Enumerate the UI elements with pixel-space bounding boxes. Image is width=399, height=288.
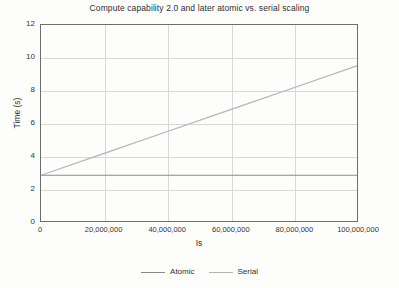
y-tick-label: 8 xyxy=(0,85,35,94)
series-layer xyxy=(41,25,357,221)
y-tick-label: 10 xyxy=(0,52,35,61)
x-tick-label: 80,000,000 xyxy=(276,225,314,234)
y-tick-label: 4 xyxy=(0,151,35,160)
y-tick-label: 2 xyxy=(0,184,35,193)
y-tick-label: 0 xyxy=(0,217,35,226)
series-line-serial xyxy=(41,66,357,175)
y-tick-label: 12 xyxy=(0,19,35,28)
chart-figure: Compute capability 2.0 and later atomic … xyxy=(0,0,399,288)
legend-swatch-serial xyxy=(209,272,233,273)
x-tick-label: 20,000,000 xyxy=(85,225,123,234)
x-tick-label: 60,000,000 xyxy=(212,225,250,234)
x-tick-label: 0 xyxy=(38,225,42,234)
chart-legend: AtomicSerial xyxy=(0,268,399,276)
legend-label: Atomic xyxy=(170,268,194,276)
y-tick-label: 6 xyxy=(0,118,35,127)
legend-label: Serial xyxy=(238,268,258,276)
legend-item-serial[interactable]: Serial xyxy=(209,268,258,276)
x-tick-label: 40,000,000 xyxy=(148,225,186,234)
plot-area xyxy=(40,24,358,222)
chart-title: Compute capability 2.0 and later atomic … xyxy=(0,3,399,13)
x-tick-label: 100,000,000 xyxy=(337,225,379,234)
legend-swatch-atomic xyxy=(141,272,165,273)
legend-item-atomic[interactable]: Atomic xyxy=(141,268,194,276)
x-axis-title: Is xyxy=(40,238,358,248)
